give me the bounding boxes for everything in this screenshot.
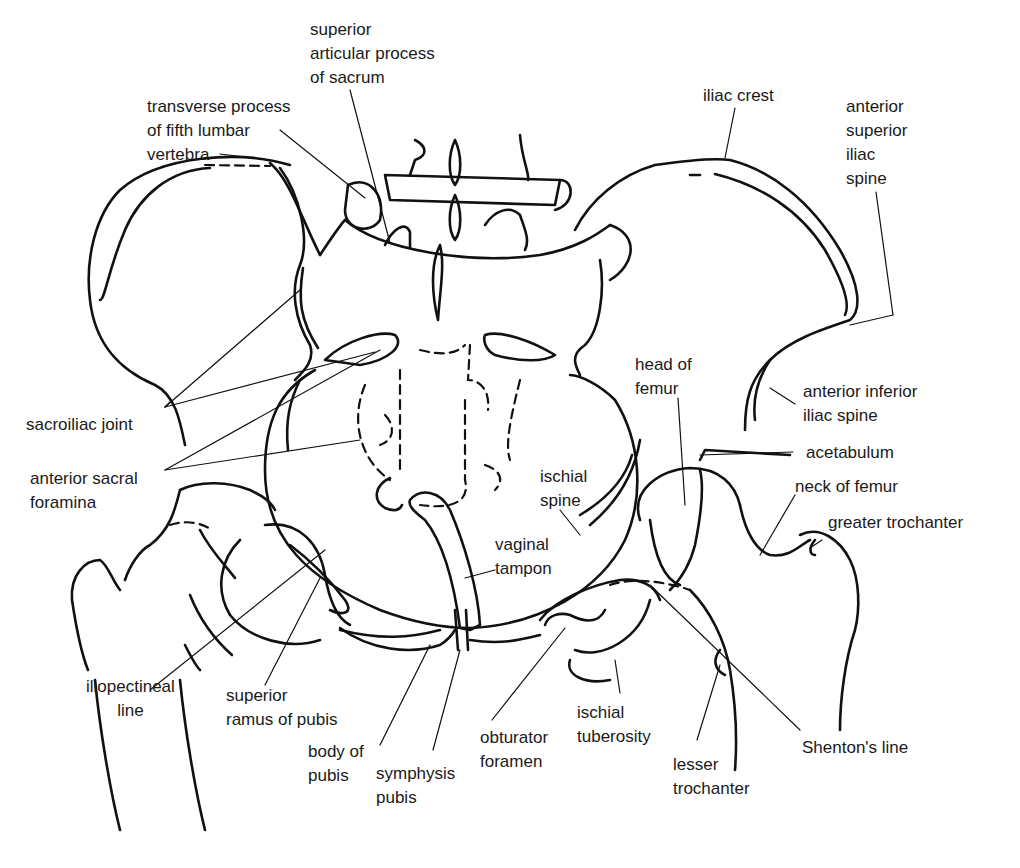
label-ischial-tuberosity: ischial tuberosity [577, 701, 651, 749]
label-greater-trochanter: greater trochanter [828, 511, 963, 535]
label-iliac-crest: iliac crest [703, 84, 774, 108]
sacrum-outline [345, 220, 610, 258]
label-anterior-sacral-foramina: anterior sacral foramina [30, 467, 138, 515]
label-superior-ramus-of-pubis: superior ramus of pubis [226, 684, 338, 732]
label-vaginal-tampon: vaginal tampon [495, 533, 552, 581]
label-iliopectineal-line: iliopectineal line [86, 675, 175, 723]
vaginal-tampon-shape [410, 493, 480, 630]
pelvis-diagram: superior articular process of sacrum tra… [0, 0, 1020, 868]
label-neck-of-femur: neck of femur [795, 475, 898, 499]
label-symphysis-pubis: symphysis pubis [376, 762, 455, 810]
label-acetabulum: acetabulum [806, 441, 894, 465]
label-shentons-line: Shenton's line [802, 736, 908, 760]
label-superior-articular-process: superior articular process of sacrum [310, 18, 435, 90]
label-head-of-femur: head of femur [635, 353, 692, 401]
right-femoral-head [638, 468, 740, 520]
label-sacroiliac-joint: sacroiliac joint [26, 413, 133, 437]
label-transverse-process: transverse process of fifth lumbar verte… [147, 95, 291, 167]
label-obturator-foramen: obturator foramen [480, 726, 548, 774]
left-ilium-outline [89, 157, 290, 445]
leader-lines [150, 90, 893, 750]
label-anterior-superior-iliac-spine: anterior superior iliac spine [846, 95, 907, 191]
label-ischial-spine: ischial spine [540, 465, 587, 513]
label-anterior-inferior-iliac-spine: anterior inferior iliac spine [803, 380, 917, 428]
label-body-of-pubis: body of pubis [308, 740, 364, 788]
label-lesser-trochanter: lesser trochanter [673, 753, 750, 801]
